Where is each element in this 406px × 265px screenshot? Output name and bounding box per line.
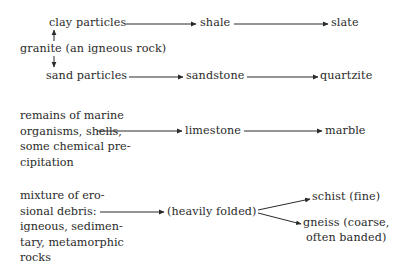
- node-schist: schist (fine): [312, 191, 380, 203]
- text-line: organisms, shells,: [20, 124, 131, 140]
- node-gneiss-line2: often banded): [306, 232, 386, 244]
- node-clay-particles: clay particles: [49, 17, 126, 29]
- node-sand-particles: sand particles: [46, 70, 127, 82]
- text-line: some chemical pre-: [20, 139, 131, 155]
- node-gneiss-line1: gneiss (coarse,: [303, 217, 389, 229]
- node-sandstone: sandstone: [186, 70, 244, 82]
- node-slate: slate: [331, 17, 359, 29]
- arrow-folded-to-schist: [258, 199, 310, 210]
- text-line: tary, metamorphic: [20, 235, 124, 251]
- node-marble: marble: [325, 125, 366, 137]
- text-line: cipitation: [20, 155, 131, 171]
- text-line: rocks: [20, 250, 124, 265]
- node-heavily-folded: (heavily folded): [167, 206, 257, 218]
- text-line: remains of marine: [20, 108, 131, 124]
- node-shale: shale: [200, 17, 230, 29]
- node-limestone: limestone: [185, 125, 241, 137]
- node-erosional-debris: mixture of ero- sional debris: igneous, …: [20, 188, 124, 265]
- text-line: igneous, sedimen-: [20, 219, 124, 235]
- arrow-folded-to-gneiss: [258, 213, 301, 224]
- node-granite: granite (an igneous rock): [20, 43, 166, 55]
- node-marine-remains: remains of marine organisms, shells, som…: [20, 108, 131, 170]
- text-line: sional debris:: [20, 204, 124, 220]
- text-line: mixture of ero-: [20, 188, 124, 204]
- node-quartzite: quartzite: [320, 70, 372, 82]
